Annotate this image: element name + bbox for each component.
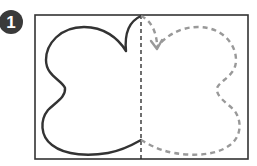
fold-arrow-path bbox=[141, 16, 157, 44]
diagram-canvas: 1 bbox=[0, 0, 257, 166]
step-number: 1 bbox=[6, 13, 15, 32]
step-badge: 1 bbox=[0, 10, 23, 34]
solid-half-shape bbox=[42, 16, 141, 155]
